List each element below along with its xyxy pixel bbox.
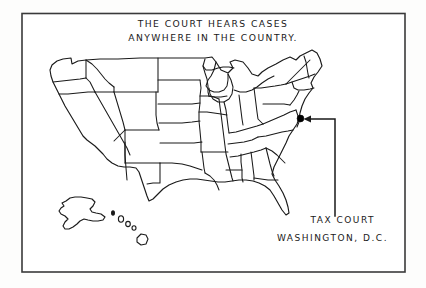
title-line-2: ANYWHERE IN THE COUNTRY.	[128, 32, 298, 43]
hawaii-island-oahu	[118, 216, 123, 222]
caption-line-1: TAX COURT	[309, 215, 375, 225]
hawaii-island-molokai	[126, 221, 131, 226]
hawaii-island-maui	[132, 226, 136, 230]
hawaii-island-kauai	[111, 210, 115, 216]
hawaii-island-big-island	[137, 234, 148, 245]
cartoon-map-illustration: THE COURT HEARS CASES ANYWHERE IN THE CO…	[0, 0, 426, 288]
caption-line-2: WASHINGTON, D.C.	[277, 233, 388, 243]
washington-dc-marker	[297, 115, 304, 122]
title-line-1: THE COURT HEARS CASES	[137, 18, 289, 29]
